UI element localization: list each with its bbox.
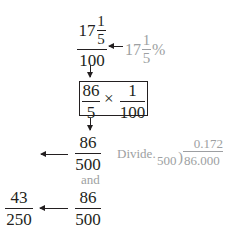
- divide-label: Divide.: [117, 146, 156, 162]
- fraction-86-over-500: 86 500: [75, 134, 101, 173]
- fraction-denominator: 100: [120, 104, 146, 121]
- fraction-numerator: 86: [80, 134, 97, 151]
- quotient: 0.172: [194, 136, 223, 152]
- fraction-denominator: 250: [6, 211, 32, 227]
- fraction-denominator: 5: [97, 32, 105, 47]
- fraction-denominator: 500: [75, 156, 101, 173]
- fraction-43-over-250: 43 250: [5, 189, 33, 227]
- fraction-86-over-500-repeat: 86 500: [75, 189, 101, 227]
- percent-sign: %: [152, 41, 165, 59]
- left-arrow-icon: [109, 46, 123, 47]
- annotation-fraction-denominator: 5: [143, 51, 151, 66]
- annotation-fraction-numerator: 1: [143, 33, 151, 48]
- left-arrow-icon: [40, 208, 68, 209]
- fraction-part: 1 5: [97, 14, 106, 47]
- fraction-numerator: 86: [83, 82, 100, 99]
- annotation-whole: 17: [125, 41, 141, 59]
- long-division: 0.172 500 ) 86.000: [157, 136, 223, 172]
- fraction-bar: [75, 208, 101, 209]
- down-arrow-icon: [90, 65, 91, 77]
- multiply-sign: ×: [104, 89, 114, 109]
- denominator: 100: [79, 52, 105, 69]
- left-arrow-icon: [41, 154, 68, 155]
- fraction-bar: [77, 49, 107, 50]
- fraction-bar: [75, 153, 101, 154]
- fraction-86-over-5: 86 5: [82, 82, 100, 121]
- percent-annotation: 17 1 5 %: [125, 33, 165, 66]
- divisor: 500: [157, 153, 177, 169]
- fraction-bar: [120, 101, 145, 102]
- fraction-numerator: 1: [128, 82, 137, 99]
- down-arrow-icon: [90, 118, 91, 130]
- fraction-numerator: 86: [80, 189, 97, 206]
- fraction-1-over-100: 1 100: [120, 82, 145, 121]
- fraction-numerator: 43: [11, 189, 28, 206]
- fraction-denominator: 500: [75, 211, 101, 227]
- whole-part: 17: [79, 21, 96, 41]
- mixed-number-numerator: 17 1 5: [79, 14, 106, 47]
- division-vinculum: [183, 151, 223, 152]
- complex-fraction: 17 1 5 100: [77, 14, 107, 69]
- dividend: 86.000: [184, 153, 220, 169]
- and-label: and: [81, 172, 100, 188]
- fraction-bar: [5, 208, 33, 209]
- fraction-numerator: 1: [97, 14, 105, 29]
- fraction-bar: [82, 101, 100, 102]
- annotation-fraction: 1 5: [142, 33, 151, 66]
